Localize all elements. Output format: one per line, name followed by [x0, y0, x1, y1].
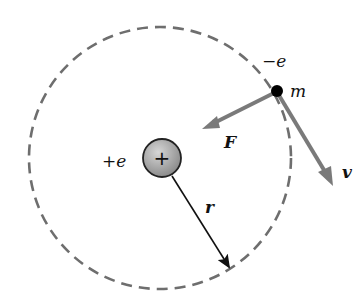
nucleus: +: [143, 139, 181, 177]
nucleus-charge-label: +e: [102, 151, 126, 171]
force-vector-arrow: [210, 92, 276, 125]
electron-dot: [271, 85, 283, 97]
velocity-label: v: [342, 162, 353, 182]
radius-arrow: [172, 176, 229, 267]
bohr-orbit-diagram: + −e m F v +e r: [0, 0, 364, 301]
electron-charge-label: −e: [262, 51, 286, 71]
radius-label: r: [205, 197, 215, 217]
force-arrowhead: [202, 116, 220, 129]
electron-mass-label: m: [290, 81, 306, 101]
nucleus-plus-sign: +: [154, 146, 171, 170]
velocity-vector-arrow: [277, 92, 327, 175]
velocity-arrowhead: [318, 166, 333, 186]
force-label: F: [223, 132, 238, 152]
